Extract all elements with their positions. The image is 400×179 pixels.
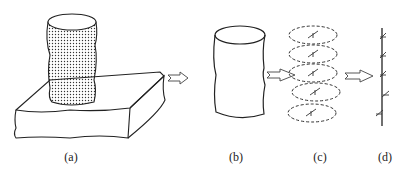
panel-a-label: (a) [56, 150, 86, 165]
stippled-cylinder [47, 14, 97, 105]
panel-d-label: (d) [370, 150, 400, 165]
arrow-b-to-c [267, 69, 295, 81]
panel-b-label: (b) [221, 150, 251, 165]
cylinder-outline [214, 26, 265, 118]
panel-c-label: (c) [305, 150, 335, 165]
arrow-a-to-b [168, 72, 188, 84]
arrow-c-to-d [345, 70, 373, 82]
dashed-slices [288, 26, 340, 122]
